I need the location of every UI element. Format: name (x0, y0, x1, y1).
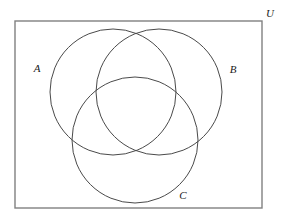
set-label-c: C (179, 189, 187, 201)
set-circle-b (96, 29, 222, 155)
venn-diagram-figure: U A B C (0, 0, 287, 221)
universe-label: U (266, 7, 275, 19)
set-circle-a (50, 29, 176, 155)
set-circle-c (72, 77, 198, 203)
universe-rectangle (15, 21, 262, 208)
set-label-b: B (230, 63, 237, 75)
venn-diagram-canvas: U A B C (0, 0, 287, 221)
set-label-a: A (33, 62, 41, 74)
